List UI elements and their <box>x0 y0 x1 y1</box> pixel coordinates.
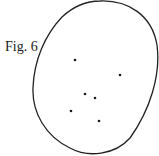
data-point <box>84 93 87 96</box>
data-point <box>70 110 73 113</box>
data-point <box>74 59 77 62</box>
points-group <box>70 59 122 123</box>
data-point <box>119 74 122 77</box>
data-point <box>98 120 101 123</box>
figure-label: Fig. 6 <box>5 40 38 54</box>
data-point <box>94 97 97 100</box>
figure-canvas <box>0 0 159 156</box>
boundary-outline <box>33 1 158 154</box>
figure-6: Fig. 6 <box>0 0 159 156</box>
